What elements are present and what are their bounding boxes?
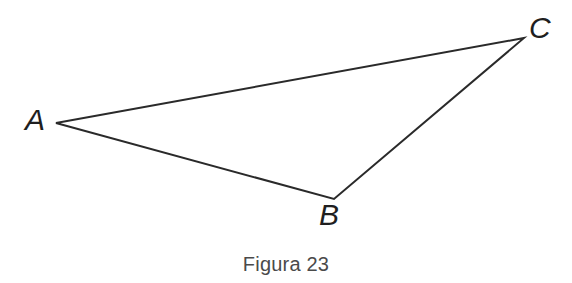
vertex-label-c: C <box>529 13 551 43</box>
figure-caption: Figura 23 <box>0 252 572 276</box>
triangle-diagram <box>0 0 572 283</box>
vertex-label-a: A <box>25 105 45 135</box>
triangle-outline <box>56 38 524 199</box>
vertex-label-b: B <box>319 200 339 230</box>
figure-container: A B C Figura 23 <box>0 0 572 283</box>
